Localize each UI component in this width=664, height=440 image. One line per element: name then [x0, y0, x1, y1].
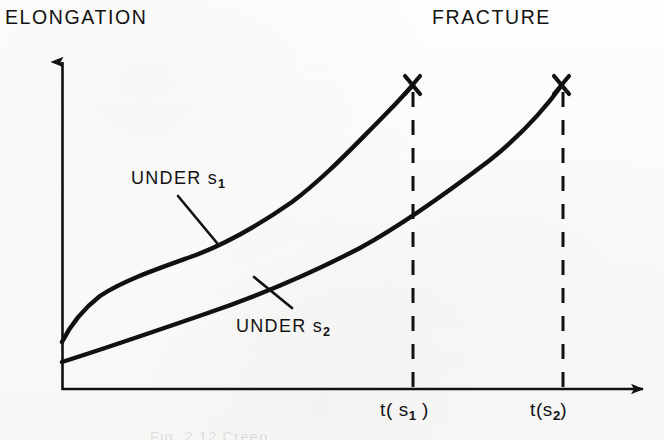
x-tick-label-ts2-main: t(s — [530, 399, 553, 420]
x-tick-label-ts2-subscript: 2 — [553, 408, 560, 423]
annotation-under-s2-text: UNDER s — [236, 316, 323, 336]
x-tick-label-ts2-tail: ) — [560, 399, 567, 420]
y-axis-title: ELONGATION — [5, 8, 147, 28]
plot-canvas — [0, 0, 664, 440]
leader-line-under-s1 — [178, 196, 217, 243]
annotation-under-s1-subscript: 1 — [218, 177, 225, 191]
annotation-under-s1-text: UNDER s — [131, 168, 218, 188]
x-tick-label-ts1-tail: ) — [416, 399, 429, 420]
x-tick-label-ts1-main: t( s — [380, 399, 409, 420]
annotation-under-s2-subscript: 2 — [323, 325, 330, 339]
caption-remnant: Fig. 2.12 Creep — [150, 428, 350, 440]
annotation-under-s2: UNDER s2 — [236, 317, 330, 335]
fracture-marker-s2 — [554, 76, 569, 94]
fracture-marker-s1 — [405, 76, 420, 94]
fracture-title: FRACTURE — [432, 8, 551, 28]
x-tick-label-ts1-subscript: 1 — [409, 408, 416, 423]
x-tick-label-ts2: t(s2) — [530, 400, 567, 419]
x-tick-label-ts1: t( s1 ) — [380, 400, 429, 419]
annotation-under-s1: UNDER s1 — [131, 169, 225, 187]
creep-elongation-figure: ELONGATION FRACTURE UNDER s1 UNDER s2 t(… — [0, 0, 664, 440]
